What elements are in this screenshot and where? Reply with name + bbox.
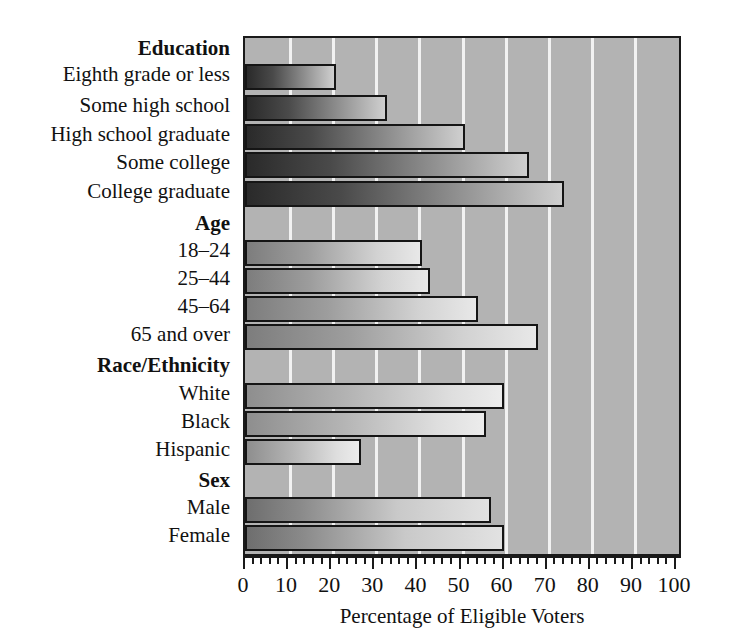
minor-tick <box>424 556 426 564</box>
bar <box>245 95 387 121</box>
major-tick <box>545 556 547 569</box>
bar-row <box>245 181 681 207</box>
x-tick-label: 30 <box>349 574 395 596</box>
x-axis <box>243 556 681 572</box>
minor-tick <box>536 556 538 564</box>
bar-row <box>245 439 681 465</box>
minor-tick <box>640 556 642 564</box>
minor-tick <box>527 556 529 564</box>
bar <box>245 383 504 409</box>
bar-row <box>245 324 681 350</box>
category-label: Some high school <box>0 95 236 116</box>
minor-tick <box>467 556 469 564</box>
minor-tick <box>484 556 486 564</box>
bar <box>245 525 504 551</box>
bar-chart: EducationEighth grade or lessSome high s… <box>0 0 741 644</box>
x-tick-label: 40 <box>392 574 438 596</box>
category-label: High school graduate <box>0 124 236 145</box>
minor-tick <box>562 556 564 564</box>
category-label: Hispanic <box>0 439 236 460</box>
bar-row <box>245 525 681 551</box>
x-tick-label: 0 <box>220 574 266 596</box>
minor-tick <box>579 556 581 564</box>
x-tick-label: 50 <box>436 574 482 596</box>
minor-tick <box>648 556 650 564</box>
major-tick <box>588 556 590 569</box>
major-tick <box>243 556 245 569</box>
category-label: 65 and over <box>0 324 236 345</box>
minor-tick <box>321 556 323 564</box>
minor-tick <box>355 556 357 564</box>
category-label: 45–64 <box>0 296 236 317</box>
minor-tick <box>614 556 616 564</box>
minor-tick <box>303 556 305 564</box>
x-tick-label: 90 <box>608 574 654 596</box>
major-tick <box>502 556 504 569</box>
bar-row <box>245 240 681 266</box>
major-tick <box>329 556 331 569</box>
minor-tick <box>450 556 452 564</box>
category-label: Eighth grade or less <box>0 64 236 85</box>
group-heading: Race/Ethnicity <box>0 355 236 376</box>
minor-tick <box>381 556 383 564</box>
plot-area <box>243 36 681 556</box>
bar <box>245 240 422 266</box>
bar-row <box>245 383 681 409</box>
category-label: 18–24 <box>0 240 236 261</box>
x-tick-label: 70 <box>522 574 568 596</box>
minor-tick <box>476 556 478 564</box>
minor-tick <box>312 556 314 564</box>
bar <box>245 64 336 90</box>
minor-tick <box>553 556 555 564</box>
group-heading: Age <box>0 213 236 234</box>
category-label: Female <box>0 525 236 546</box>
minor-tick <box>269 556 271 564</box>
bar <box>245 439 361 465</box>
bar-row <box>245 411 681 437</box>
minor-tick <box>510 556 512 564</box>
major-tick <box>674 556 676 569</box>
minor-tick <box>398 556 400 564</box>
x-tick-label: 100 <box>651 574 697 596</box>
category-label: College graduate <box>0 181 236 202</box>
bar <box>245 181 564 207</box>
major-tick <box>372 556 374 569</box>
bar <box>245 411 486 437</box>
bar <box>245 296 478 322</box>
minor-tick <box>622 556 624 564</box>
minor-tick <box>596 556 598 564</box>
minor-tick <box>295 556 297 564</box>
minor-tick <box>252 556 254 564</box>
x-tick-label: 20 <box>306 574 352 596</box>
minor-tick <box>346 556 348 564</box>
minor-tick <box>260 556 262 564</box>
bar <box>245 497 491 523</box>
minor-tick <box>441 556 443 564</box>
major-tick <box>631 556 633 569</box>
category-label: 25–44 <box>0 268 236 289</box>
minor-tick <box>605 556 607 564</box>
category-label: Black <box>0 411 236 432</box>
bar-row <box>245 95 681 121</box>
x-tick-label: 10 <box>263 574 309 596</box>
bar <box>245 268 430 294</box>
major-tick <box>459 556 461 569</box>
minor-tick <box>571 556 573 564</box>
bar <box>245 152 529 178</box>
minor-tick <box>519 556 521 564</box>
major-tick <box>415 556 417 569</box>
bar-row <box>245 124 681 150</box>
minor-tick <box>433 556 435 564</box>
category-label: Some college <box>0 152 236 173</box>
minor-tick <box>665 556 667 564</box>
minor-tick <box>493 556 495 564</box>
minor-tick <box>277 556 279 564</box>
minor-tick <box>407 556 409 564</box>
x-tick-label: 60 <box>479 574 525 596</box>
minor-tick <box>338 556 340 564</box>
bar <box>245 124 465 150</box>
bar-row <box>245 64 681 90</box>
group-heading: Education <box>0 38 236 59</box>
bar <box>245 324 538 350</box>
x-tick-label: 80 <box>565 574 611 596</box>
